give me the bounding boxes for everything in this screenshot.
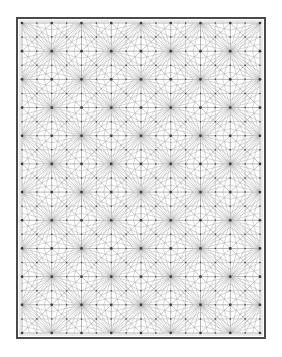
mesh-node-minor (215, 304, 217, 306)
mesh-node-minor (155, 248, 157, 250)
mesh-node-minor (36, 304, 38, 306)
mesh-node-minor (140, 290, 142, 292)
mesh-node-minor (215, 262, 217, 264)
mesh-node-minor (244, 50, 246, 52)
mesh-node-major (21, 50, 24, 53)
figure-root (0, 0, 282, 357)
mesh-node-minor (200, 36, 202, 38)
mesh-node-minor (125, 318, 127, 320)
mesh-node-major (199, 191, 202, 194)
mesh-node-minor (170, 36, 172, 38)
mesh-node-minor (155, 65, 157, 67)
mesh-node-minor (66, 191, 68, 193)
mesh-node-minor (185, 135, 187, 137)
mesh-node-major (50, 106, 53, 109)
mesh-node-major (259, 50, 262, 53)
mesh-node-minor (96, 318, 98, 320)
mesh-node-minor (244, 262, 246, 264)
mesh-node-major (21, 191, 24, 194)
mesh-node-major (50, 247, 53, 250)
mesh-node-minor (96, 234, 98, 236)
mesh-node-minor (155, 93, 157, 95)
mesh-node-major (50, 219, 53, 222)
mesh-node-minor (185, 50, 187, 52)
mesh-node-minor (259, 318, 261, 320)
mesh-node-minor (244, 65, 246, 67)
mesh-node-major (110, 303, 113, 306)
mesh-node-major (110, 22, 113, 25)
mesh-node-minor (155, 205, 157, 207)
mesh-node-minor (66, 205, 68, 207)
mesh-node-minor (36, 107, 38, 109)
mesh-node-minor (244, 332, 246, 334)
mesh-node-minor (244, 304, 246, 306)
mesh-node-minor (21, 36, 23, 38)
mesh-node-minor (111, 234, 113, 236)
mesh-node-major (21, 332, 24, 335)
mesh-node-major (50, 78, 53, 81)
mesh-node-minor (81, 177, 83, 179)
mesh-node-minor (66, 332, 68, 334)
mesh-node-minor (244, 318, 246, 320)
mesh-node-minor (21, 149, 23, 151)
mesh-node-minor (125, 191, 127, 193)
mesh-node-major (259, 22, 262, 25)
mesh-node-minor (21, 177, 23, 179)
mesh-node-major (199, 219, 202, 222)
mesh-node-major (21, 106, 24, 109)
mesh-node-major (169, 275, 172, 278)
mesh-node-major (229, 219, 232, 222)
mesh-node-minor (200, 290, 202, 292)
mesh-node-minor (96, 290, 98, 292)
mesh-node-minor (96, 262, 98, 264)
mesh-node-minor (185, 107, 187, 109)
mesh-node-minor (96, 135, 98, 137)
mesh-node-minor (36, 149, 38, 151)
mesh-node-minor (111, 177, 113, 179)
mesh-node-major (21, 78, 24, 81)
mesh-node-minor (155, 290, 157, 292)
mesh-node-minor (36, 248, 38, 250)
mesh-node-major (21, 219, 24, 222)
mesh-node-minor (259, 234, 261, 236)
mesh-node-minor (51, 290, 53, 292)
mesh-node-minor (96, 205, 98, 207)
mesh-node-minor (185, 93, 187, 95)
mesh-node-minor (185, 276, 187, 278)
mesh-node-minor (66, 149, 68, 151)
mesh-node-minor (51, 262, 53, 264)
mesh-node-minor (36, 93, 38, 95)
mesh-node-major (80, 50, 83, 53)
mesh-node-major (80, 163, 83, 166)
mesh-node-minor (21, 205, 23, 207)
mesh-node-major (140, 219, 143, 222)
mesh-node-minor (155, 135, 157, 137)
mesh-node-major (50, 163, 53, 166)
mesh-node-minor (259, 149, 261, 151)
mesh-node-minor (111, 36, 113, 38)
mesh-node-minor (200, 93, 202, 95)
mesh-node-minor (125, 248, 127, 250)
mesh-node-minor (96, 304, 98, 306)
mesh-node-minor (170, 318, 172, 320)
mesh-node-minor (140, 205, 142, 207)
mesh-node-major (259, 163, 262, 166)
mesh-node-minor (125, 304, 127, 306)
mesh-node-minor (36, 290, 38, 292)
mesh-node-minor (230, 234, 232, 236)
mesh-node-major (259, 78, 262, 81)
mesh-node-minor (66, 93, 68, 95)
mesh-node-major (140, 191, 143, 194)
mesh-node-minor (66, 22, 68, 24)
mesh-figure (0, 0, 282, 357)
mesh-node-minor (200, 262, 202, 264)
mesh-node-minor (140, 121, 142, 123)
mesh-node-minor (96, 93, 98, 95)
mesh-node-minor (36, 276, 38, 278)
mesh-node-minor (96, 149, 98, 151)
mesh-node-minor (111, 290, 113, 292)
mesh-node-minor (244, 36, 246, 38)
mesh-node-minor (140, 149, 142, 151)
mesh-node-major (140, 303, 143, 306)
mesh-node-major (140, 163, 143, 166)
